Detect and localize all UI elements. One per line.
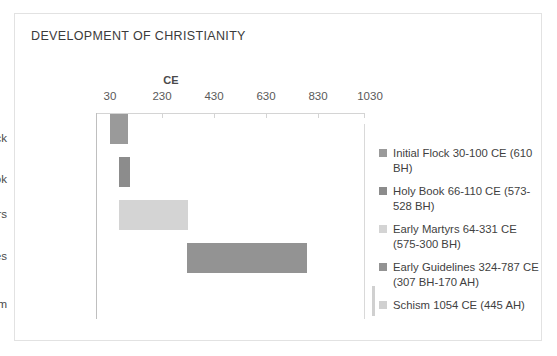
bar-early-guidelines — [187, 243, 307, 273]
x-axis-title: CE — [15, 74, 327, 86]
y-axis-label-early-martyrs: Early Martyrs — [0, 208, 7, 221]
x-tick-label-3: 630 — [256, 90, 275, 102]
bar-holy-book — [119, 157, 130, 187]
bar-schism — [372, 286, 375, 316]
legend-item-label: Initial Flock 30-100 CE (610 BH) — [393, 147, 532, 174]
x-tick-label-4: 830 — [308, 90, 327, 102]
plot-area: CE 30 230 430 630 830 1030 Initial Flock… — [15, 14, 365, 342]
bar-initial-flock — [110, 114, 128, 144]
bar-early-martyrs — [119, 200, 188, 230]
legend-divider — [364, 124, 365, 319]
y-axis-line — [96, 113, 97, 319]
legend-item-label: Early Guidelines 324-787 CE (307 BH-170 … — [393, 261, 539, 288]
x-tick-mark-1 — [162, 113, 163, 118]
legend-swatch-icon — [379, 187, 387, 195]
legend-item-label: Holy Book 66-110 CE (573-528 BH) — [393, 185, 530, 212]
legend-swatch-icon — [379, 225, 387, 233]
y-axis-label-holy-book: Holy Book — [0, 173, 7, 186]
legend-item-label: Early Martyrs 64-331 CE (575-300 BH) — [393, 223, 517, 250]
x-tick-mark-4 — [318, 113, 319, 118]
x-tick-label-0: 30 — [104, 90, 117, 102]
x-tick-label-1: 230 — [152, 90, 171, 102]
x-tick-mark-3 — [266, 113, 267, 118]
legend-swatch-icon — [379, 263, 387, 271]
chart-legend: Initial Flock 30-100 CE (610 BH) Holy Bo… — [379, 146, 539, 322]
x-tick-mark-5 — [364, 113, 365, 118]
y-axis-label-schism: Schism — [0, 298, 7, 311]
legend-swatch-icon — [379, 149, 387, 157]
x-axis-line — [96, 113, 364, 114]
legend-item-schism: Schism 1054 CE (445 AH) — [379, 298, 539, 313]
legend-item-holy-book: Holy Book 66-110 CE (573-528 BH) — [379, 184, 539, 213]
legend-swatch-icon — [379, 301, 387, 309]
chart-card: DEVELOPMENT OF CHRISTIANITY CE 30 230 43… — [14, 13, 542, 341]
x-tick-label-2: 430 — [204, 90, 223, 102]
y-axis-label-initial-flock: Initial Flock — [0, 132, 7, 145]
x-tick-label-5: 1030 — [357, 90, 383, 102]
legend-item-label: Schism 1054 CE (445 AH) — [393, 299, 525, 311]
legend-item-early-guidelines: Early Guidelines 324-787 CE (307 BH-170 … — [379, 260, 539, 289]
legend-item-initial-flock: Initial Flock 30-100 CE (610 BH) — [379, 146, 539, 175]
x-tick-mark-2 — [214, 113, 215, 118]
y-axis-label-early-guidelines: Early Guidelines — [0, 250, 7, 263]
legend-item-early-martyrs: Early Martyrs 64-331 CE (575-300 BH) — [379, 222, 539, 251]
